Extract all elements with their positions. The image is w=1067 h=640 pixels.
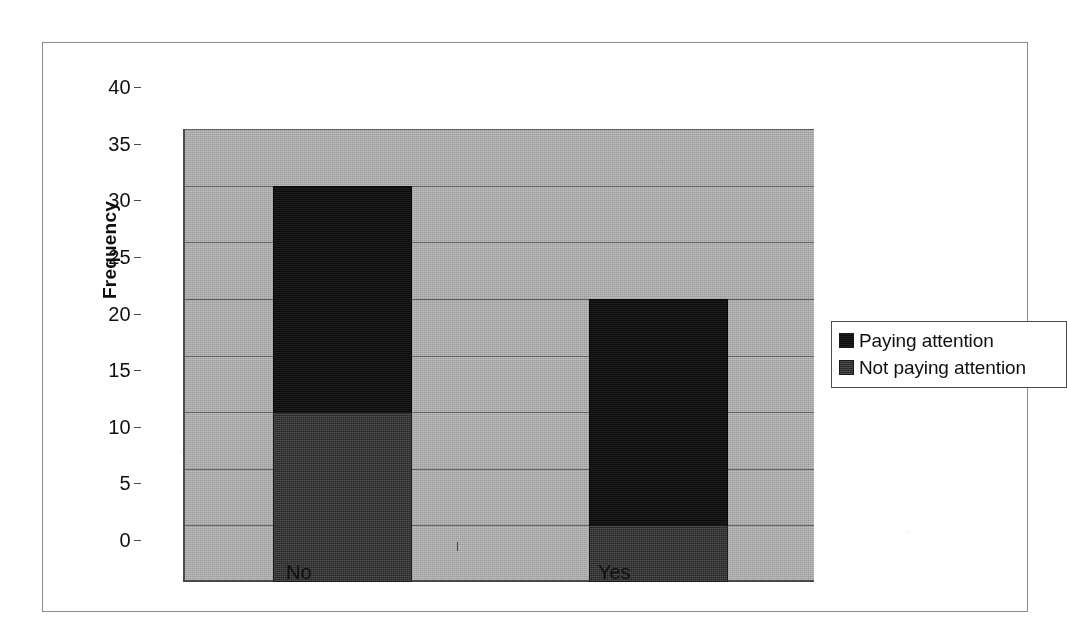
y-axis-tick-mark xyxy=(134,257,141,258)
bar-segment xyxy=(273,186,412,413)
y-axis-tick-label: 40 xyxy=(63,76,131,99)
y-axis-tick-label: 35 xyxy=(63,132,131,155)
legend-swatch-icon xyxy=(839,333,854,348)
y-axis-tick-label: 15 xyxy=(63,359,131,382)
y-axis-tick-label: 25 xyxy=(63,245,131,268)
y-axis-tick-label: 10 xyxy=(63,415,131,438)
chart-frame: Frequency 0510152025303540 NoYes Paying … xyxy=(42,42,1028,612)
y-axis-tick-mark xyxy=(134,200,141,201)
y-axis-tick-label: 30 xyxy=(63,189,131,212)
y-axis-tick-mark xyxy=(134,540,141,541)
y-axis-tick-label: 20 xyxy=(63,302,131,325)
y-axis-tick-mark xyxy=(134,483,141,484)
y-axis-tick-mark xyxy=(134,144,141,145)
y-axis-tick-label: 5 xyxy=(63,472,131,495)
legend-item-label: Not paying attention xyxy=(859,357,1026,379)
x-axis-tick-label: Yes xyxy=(534,561,694,584)
y-axis-tick-mark xyxy=(134,370,141,371)
x-axis-tick-label: No xyxy=(219,561,379,584)
y-axis-tick-label: 0 xyxy=(63,529,131,552)
chart-legend: Paying attentionNot paying attention xyxy=(831,321,1067,388)
y-axis-tick-mark xyxy=(134,427,141,428)
legend-item: Paying attention xyxy=(839,327,1059,354)
y-axis-tick-mark xyxy=(134,87,141,88)
y-axis-tick-mark xyxy=(134,314,141,315)
legend-item: Not paying attention xyxy=(839,354,1059,381)
bar-segment xyxy=(589,299,728,526)
legend-swatch-icon xyxy=(839,360,854,375)
plot-area xyxy=(183,129,814,582)
x-axis-tick-mark xyxy=(457,542,458,551)
gridline xyxy=(185,129,814,130)
legend-item-label: Paying attention xyxy=(859,330,994,352)
bar-segment xyxy=(273,412,412,582)
